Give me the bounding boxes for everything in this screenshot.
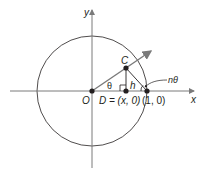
point-origin <box>89 88 94 93</box>
n-theta-label: nθ <box>168 75 178 85</box>
h-label: h <box>130 80 136 91</box>
y-axis-label: y <box>83 7 90 18</box>
angle-arc-n-theta <box>141 86 143 92</box>
point-unit <box>144 88 149 93</box>
point-c <box>123 65 128 70</box>
unit-point-label: (1, 0) <box>142 95 165 106</box>
d-label: D = (x, 0) <box>99 95 140 106</box>
point-d <box>123 88 128 93</box>
unit-circle-diagram: y x O C D = (x, 0) (1, 0) θ h nθ <box>0 0 209 174</box>
x-axis-label: x <box>190 94 197 105</box>
n-theta-leader <box>145 80 167 87</box>
origin-label: O <box>82 95 90 106</box>
c-label: C <box>121 55 129 66</box>
theta-label: θ <box>107 81 112 91</box>
